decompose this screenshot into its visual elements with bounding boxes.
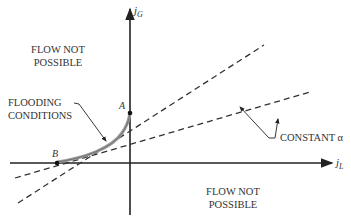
point-a-label: A	[119, 100, 125, 111]
point-a-marker	[128, 111, 133, 116]
point-b-marker	[55, 161, 60, 166]
alpha-leader-1	[240, 107, 272, 138]
flooding-diagram: jG jL FLOW NOT POSSIBLE FLOW NOT POSSIBL…	[0, 0, 351, 222]
point-b-label: B	[52, 148, 58, 159]
region-lower-right: FLOW NOT POSSIBLE	[203, 185, 263, 211]
region-upper-left: FLOW NOT POSSIBLE	[28, 43, 88, 69]
flooding-conditions-label: FLOODING CONDITIONS	[8, 96, 72, 122]
constant-alpha-label: CONSTANT α	[280, 131, 343, 144]
x-axis-label: jL	[336, 156, 344, 171]
alpha-leader-2	[272, 119, 278, 138]
flooding-leader	[74, 103, 106, 141]
y-axis-label: jG	[134, 4, 143, 19]
